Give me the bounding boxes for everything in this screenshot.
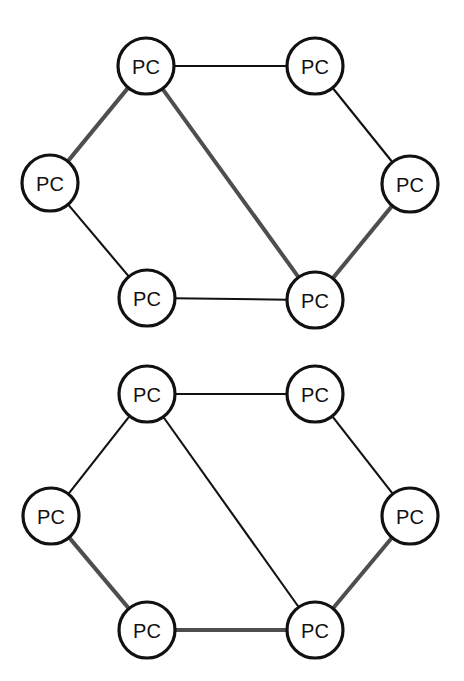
node-b-right: PC bbox=[382, 488, 438, 544]
pc-node-label: PC bbox=[301, 620, 329, 642]
pc-node-label: PC bbox=[37, 506, 65, 528]
pc-node-label: PC bbox=[301, 384, 329, 406]
pc-node-label: PC bbox=[301, 56, 329, 78]
pc-node-label: PC bbox=[301, 290, 329, 312]
network-link-t-left-to-t-bottomleft bbox=[67, 204, 129, 278]
network-link-t-bottomleft-to-t-bottomright bbox=[174, 298, 288, 299]
node-t-topright: PC bbox=[287, 38, 343, 94]
node-t-bottomright: PC bbox=[287, 272, 343, 328]
node-b-topleft: PC bbox=[119, 366, 175, 422]
pc-node-label: PC bbox=[36, 173, 64, 195]
edges-layer bbox=[67, 66, 393, 630]
network-diagram-svg: PCPCPCPCPCPCPCPCPCPCPCPC bbox=[0, 0, 464, 681]
diagram-canvas: PCPCPCPCPCPCPCPCPCPCPCPC bbox=[0, 0, 464, 681]
network-link-t-right-to-t-bottomright bbox=[332, 205, 393, 279]
node-b-bottomleft: PC bbox=[119, 602, 175, 658]
pc-node-label: PC bbox=[396, 506, 424, 528]
node-t-topleft: PC bbox=[118, 38, 174, 94]
node-b-bottomright: PC bbox=[287, 602, 343, 658]
pc-node-label: PC bbox=[132, 56, 160, 78]
network-link-b-topleft-to-b-left bbox=[68, 415, 131, 495]
network-link-b-right-to-b-bottomright bbox=[332, 537, 392, 610]
node-t-left: PC bbox=[22, 155, 78, 211]
node-b-topright: PC bbox=[287, 366, 343, 422]
network-link-t-topright-to-t-right bbox=[332, 87, 393, 163]
node-t-right: PC bbox=[382, 156, 438, 212]
network-link-b-left-to-b-bottomleft bbox=[68, 537, 129, 610]
network-link-b-topleft-to-b-bottomright bbox=[163, 416, 300, 608]
network-link-t-topleft-to-t-bottomright bbox=[162, 88, 299, 278]
node-t-bottomleft: PC bbox=[119, 270, 175, 326]
pc-node-label: PC bbox=[133, 288, 161, 310]
pc-node-label: PC bbox=[133, 384, 161, 406]
network-link-t-topleft-to-t-left bbox=[67, 87, 129, 162]
node-b-left: PC bbox=[23, 488, 79, 544]
network-link-b-topright-to-b-right bbox=[332, 415, 394, 494]
pc-node-label: PC bbox=[396, 174, 424, 196]
nodes-layer: PCPCPCPCPCPCPCPCPCPCPCPC bbox=[22, 38, 438, 658]
pc-node-label: PC bbox=[133, 620, 161, 642]
